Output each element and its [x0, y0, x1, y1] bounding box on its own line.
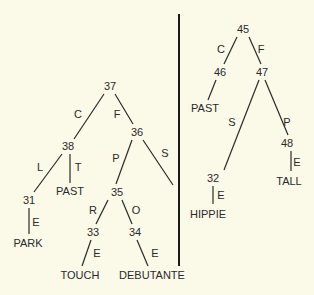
left-node-33: 33 [87, 226, 99, 238]
left-node-38: 38 [62, 140, 74, 152]
right-edge-label: P [283, 116, 290, 128]
left-node-36: 36 [131, 126, 143, 138]
right-node-hippie: HIPPIE [190, 208, 226, 220]
left-node-35: 35 [111, 186, 123, 198]
left-edge-label: O [132, 204, 141, 216]
left-node-debutante: DEBUTANTE [119, 269, 185, 281]
right-edge-label: F [258, 43, 265, 55]
left-node-park: PARK [13, 237, 43, 249]
left-edge-label: L [37, 161, 43, 173]
left-edge-label: E [93, 247, 100, 259]
right-node-47: 47 [256, 66, 268, 78]
left-edge-label: P [112, 152, 119, 164]
left-edge-label: T [75, 161, 82, 173]
left-node-34: 34 [129, 226, 141, 238]
right-node-45: 45 [237, 23, 249, 35]
trie-diagram: CFLTPSEROEE37383631PAST35PARK3334TOUCHDE… [0, 0, 314, 295]
right-node-32: 32 [207, 172, 219, 184]
left-edge-label: F [114, 108, 121, 120]
left-edge-label: S [161, 147, 168, 159]
right-node-past: PAST [191, 102, 219, 114]
right-edge-label: E [217, 189, 224, 201]
right-edge-label: C [217, 43, 225, 55]
left-node-37: 37 [104, 80, 116, 92]
left-edge-label: E [151, 247, 158, 259]
left-node-touch: TOUCH [61, 269, 100, 281]
left-edge-label: E [32, 216, 39, 228]
right-edge-label: E [293, 156, 300, 168]
left-node-31: 31 [23, 194, 35, 206]
right-node-48: 48 [281, 137, 293, 149]
left-node-past: PAST [56, 185, 84, 197]
left-edge-label: C [74, 108, 82, 120]
right-edge-label: S [228, 116, 235, 128]
right-node-46: 46 [214, 66, 226, 78]
right-node-tall: TALL [276, 175, 301, 187]
left-edge-label: R [89, 204, 97, 216]
